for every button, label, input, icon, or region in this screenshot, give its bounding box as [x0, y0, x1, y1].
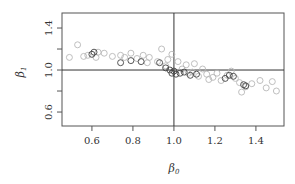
x-tick-label: 0.6	[84, 135, 100, 146]
data-point	[101, 50, 107, 56]
y-axis: 0.61.01.4	[43, 20, 62, 120]
data-point	[66, 54, 72, 60]
x-tick-label: 0.8	[125, 135, 141, 146]
x-tick-label: 1.2	[207, 135, 223, 146]
data-point	[183, 62, 189, 68]
data-point	[85, 52, 91, 58]
data-point	[269, 79, 275, 85]
data-point	[109, 53, 115, 59]
data-point	[128, 50, 134, 56]
y-axis-title: β1	[14, 67, 28, 79]
scatter-chart: 0.60.81.01.21.4 0.61.01.4 β0 β1	[0, 0, 295, 184]
data-point	[134, 56, 140, 62]
data-point	[118, 60, 124, 66]
data-point	[81, 53, 87, 59]
data-point	[273, 88, 279, 94]
data-point	[257, 78, 263, 84]
data-point	[249, 81, 255, 87]
data-point	[239, 89, 245, 95]
y-tick-label: 1.0	[43, 62, 54, 78]
x-tick-label: 1.0	[166, 135, 182, 146]
x-tick-label: 1.4	[248, 135, 264, 146]
data-point	[200, 66, 206, 72]
x-axis: 0.60.81.01.21.4	[84, 126, 264, 146]
data-point	[140, 52, 146, 58]
data-point	[138, 59, 144, 65]
data-point	[146, 54, 152, 60]
data-point	[175, 59, 181, 65]
data-point	[214, 70, 220, 76]
data-point	[263, 85, 269, 91]
data-point	[75, 42, 81, 48]
data-point	[191, 61, 197, 67]
data-point	[159, 46, 165, 52]
y-tick-label: 1.4	[43, 20, 54, 36]
y-tick-label: 0.6	[43, 104, 54, 120]
data-point	[157, 60, 163, 66]
x-axis-title: β0	[168, 162, 180, 176]
data-point	[128, 58, 134, 64]
data-point	[165, 57, 171, 63]
data-points	[66, 42, 279, 95]
